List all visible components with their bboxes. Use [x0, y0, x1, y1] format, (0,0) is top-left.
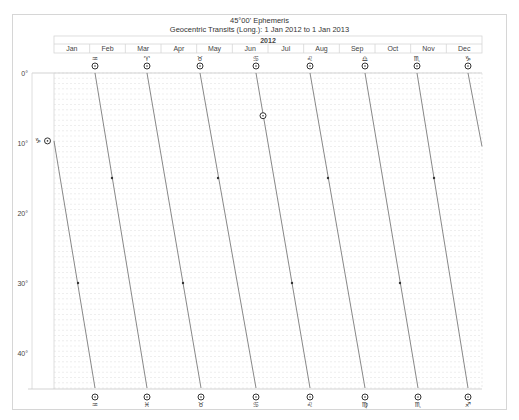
sun-icon-dot [200, 396, 202, 398]
y-tick-label: 30° [17, 280, 28, 287]
midpoint-dot [182, 282, 184, 284]
zodiac-glyph-top: ♒ [92, 55, 98, 63]
midpoint-dot [327, 177, 329, 179]
month-label-sep: Sep [351, 45, 364, 53]
ephemeris-plot: 2012JanFebMarAprMayJunJulAugSepOctNovDec… [0, 0, 519, 420]
month-label-dec: Dec [458, 45, 471, 52]
month-label-jun: Jun [245, 45, 256, 52]
month-label-may: May [208, 45, 222, 53]
sun-icon-dot [416, 65, 418, 67]
zodiac-glyph-bottom: ♏ [415, 401, 422, 409]
sun-icon-dot [47, 140, 49, 142]
zodiac-glyph-top: ♈ [144, 55, 150, 63]
sun-icon-dot [364, 396, 366, 398]
sun-icon-dot [467, 65, 469, 67]
midpoint-dot [77, 282, 79, 284]
sun-icon-dot [309, 65, 311, 67]
zodiac-glyph-bottom: ♌ [307, 401, 313, 409]
y-tick-label: 10° [17, 140, 28, 147]
sun-icon-dot [467, 396, 469, 398]
month-label-nov: Nov [422, 45, 435, 52]
month-label-feb: Feb [101, 45, 113, 52]
sun-icon-dot [255, 396, 257, 398]
month-label-mar: Mar [137, 45, 150, 52]
zodiac-glyph-bottom: ♋ [253, 401, 259, 409]
month-label-aug: Aug [315, 45, 328, 53]
y-tick-label: 40° [17, 350, 28, 357]
zodiac-glyph-top: ♎ [362, 55, 368, 63]
sun-icon-dot [255, 65, 257, 67]
midpoint-dot [291, 282, 293, 284]
sun-icon-dot [146, 396, 148, 398]
sun-icon-dot [417, 396, 419, 398]
zodiac-glyph-bottom: ♒ [92, 401, 98, 409]
zodiac-glyph-bottom: ♉ [198, 401, 204, 409]
year-label: 2012 [260, 37, 276, 44]
zodiac-glyph-bottom: ♍ [362, 401, 368, 409]
sun-icon-dot [94, 65, 96, 67]
y-tick-label: 20° [17, 210, 28, 217]
midpoint-dot [399, 282, 401, 284]
month-label-apr: Apr [173, 45, 185, 53]
zodiac-glyph-top: ♌ [307, 55, 313, 63]
zodiac-glyph-bottom: ♓ [144, 401, 150, 409]
midpoint-dot [433, 177, 435, 179]
y-tick-label: 0° [21, 70, 28, 77]
sun-icon-dot [146, 65, 148, 67]
zodiac-glyph-top: ♏ [414, 55, 421, 63]
sun-icon-dot [309, 396, 311, 398]
midpoint-dot [111, 177, 113, 179]
zodiac-glyph-bottom: ♐ [465, 401, 471, 409]
zodiac-glyph-left: ♑ [35, 137, 41, 145]
sun-icon-dot [199, 65, 201, 67]
zodiac-glyph-top: ♑ [465, 55, 471, 63]
sun-icon-dot [94, 396, 96, 398]
sun-station-icon-dot [262, 115, 264, 117]
month-label-jan: Jan [66, 45, 77, 52]
zodiac-glyph-top: ♋ [253, 55, 259, 63]
zodiac-glyph-top: ♉ [197, 55, 203, 63]
month-label-jul: Jul [281, 45, 290, 52]
sun-icon-dot [364, 65, 366, 67]
midpoint-dot [217, 177, 219, 179]
month-label-oct: Oct [387, 45, 398, 52]
